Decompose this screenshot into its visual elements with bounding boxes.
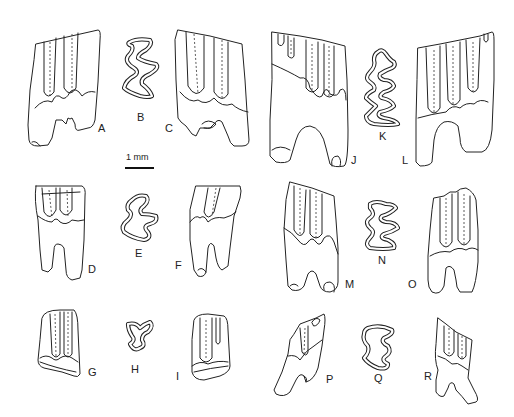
panel-k-occlusal xyxy=(366,50,398,125)
panel-label-a: A xyxy=(98,123,105,134)
panel-label-j: J xyxy=(351,155,357,166)
panel-label-c: C xyxy=(165,123,173,134)
panel-h-occlusal xyxy=(128,322,152,349)
panel-label-m: M xyxy=(345,279,354,290)
panel-m-drawing xyxy=(284,182,338,292)
panel-label-o: O xyxy=(408,279,417,290)
panel-l-drawing xyxy=(416,32,494,166)
panel-q-occlusal xyxy=(364,326,393,368)
figure-drawing xyxy=(0,0,514,417)
panel-d-drawing xyxy=(35,186,85,280)
panel-label-b: B xyxy=(137,112,144,123)
panel-p-drawing xyxy=(274,314,325,396)
panel-label-g: G xyxy=(88,367,97,378)
scale-bar-label: 1 mm xyxy=(126,152,149,162)
panel-i-drawing xyxy=(192,314,230,380)
panel-label-i: I xyxy=(176,371,179,382)
tooth-figure: 1 mm A B C D E F G H I J K L M N O P Q R xyxy=(0,0,514,417)
panel-e-occlusal xyxy=(123,196,157,241)
panel-o-drawing xyxy=(428,188,478,293)
panel-g-drawing xyxy=(38,310,80,377)
panel-label-p: P xyxy=(326,374,333,385)
panel-label-e: E xyxy=(135,248,142,259)
panel-c-drawing xyxy=(175,30,249,146)
panel-r-drawing xyxy=(435,318,477,404)
panel-f-drawing xyxy=(190,186,241,277)
panel-label-f: F xyxy=(175,260,182,271)
panel-n-occlusal xyxy=(367,202,398,249)
panel-label-h: H xyxy=(131,364,139,375)
panel-label-q: Q xyxy=(374,373,383,384)
panel-a-drawing xyxy=(28,30,100,146)
panel-b-occlusal xyxy=(124,39,157,97)
scale-bar xyxy=(125,167,154,169)
panel-label-r: R xyxy=(424,371,432,382)
panel-label-k: K xyxy=(379,131,386,142)
panel-j-drawing xyxy=(270,32,348,167)
panel-label-l: L xyxy=(402,155,408,166)
panel-label-d: D xyxy=(88,264,96,275)
panel-label-n: N xyxy=(378,255,386,266)
